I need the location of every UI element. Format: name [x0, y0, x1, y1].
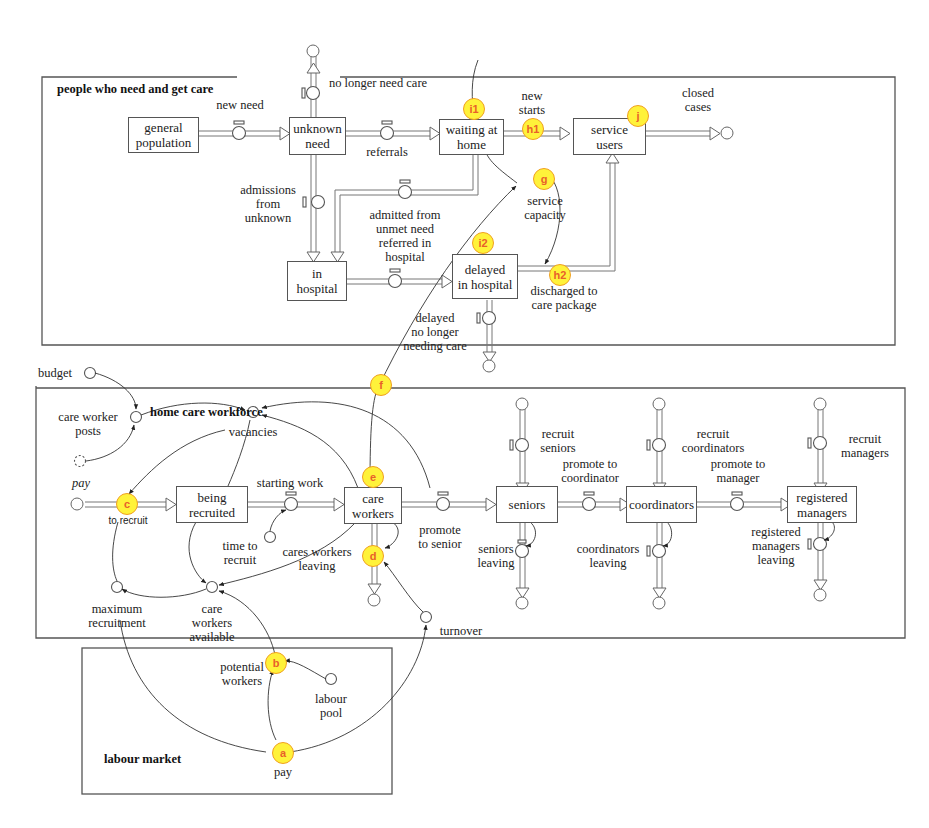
flow-new-starts: new starts — [519, 89, 545, 117]
flow-discharged-to-care-package: discharged to care package — [531, 284, 598, 312]
aux-turnover: turnover — [440, 624, 482, 638]
aux-maximum-recruitment: maximum recruitment — [88, 602, 146, 630]
aux-vacancies: vacancies — [229, 425, 278, 439]
stock-registered-managers[interactable]: registered managers — [787, 486, 857, 523]
labour-pool-icon — [326, 674, 337, 685]
flow-admitted-from-unmet-need: admitted from unmet need referred in hos… — [369, 208, 440, 264]
flow-promote-to-manager: promote to manager — [711, 457, 766, 485]
aux-service-capacity: service capacity — [524, 194, 566, 222]
flow-new-need: new need — [216, 98, 264, 112]
aux-pay-ghost: pay — [72, 476, 90, 490]
stock-being-recruited[interactable]: being recruited — [176, 486, 248, 523]
stock-unknown-need[interactable]: unknown need — [289, 117, 346, 155]
cloud-icon — [653, 597, 665, 609]
time-to-recruit-icon — [265, 532, 276, 543]
aux-pay: pay — [274, 765, 292, 779]
cloud-icon — [307, 45, 319, 57]
maximum-recruitment-icon — [112, 582, 123, 593]
stock-waiting-at-home[interactable]: waiting at home — [439, 119, 504, 155]
marker-h1: h1 — [522, 118, 544, 140]
sector-title-labour: labour market — [104, 752, 181, 767]
flow-promote-to-coordinator: promote to coordinator — [561, 457, 619, 485]
marker-i2: i2 — [472, 232, 494, 254]
flow-starting-work: starting work — [257, 476, 323, 490]
cloud-icon — [516, 597, 528, 609]
marker-g: g — [533, 168, 555, 190]
stock-care-workers[interactable]: care workers — [344, 487, 402, 524]
marker-b: b — [265, 652, 287, 674]
pay-ghost-icon — [75, 456, 86, 467]
aux-labour-pool: labour pool — [315, 692, 347, 720]
flow-closed-cases: closed cases — [682, 86, 714, 114]
flow-recruit-coordinators: recruit coordinators — [682, 427, 744, 455]
cloud-icon — [653, 398, 665, 410]
flow-to-recruit: to recruit — [109, 514, 148, 528]
stock-coordinators[interactable]: coordinators — [626, 486, 697, 523]
aux-potential-workers: potential workers — [220, 660, 264, 688]
flow-seniors-leaving: seniors leaving — [478, 542, 515, 570]
cloud-icon — [71, 498, 83, 510]
stock-delayed-in-hospital[interactable]: delayed in hospital — [452, 254, 518, 299]
care-worker-posts-icon — [131, 412, 142, 423]
stock-general-population[interactable]: general population — [128, 117, 199, 153]
marker-d: d — [362, 545, 384, 567]
cloud-icon — [814, 589, 826, 601]
flow-promote-to-senior: promote to senior — [418, 523, 461, 551]
sector-boundary-workforce — [36, 386, 905, 638]
flow-delayed-no-longer-needing-care: delayed no longer needing care — [403, 311, 467, 353]
aux-time-to-recruit: time to recruit — [222, 539, 257, 567]
cloud-icon — [814, 398, 826, 410]
sector-title-workforce: home care workforce — [150, 405, 263, 420]
aux-care-workers-available: care workers available — [189, 602, 234, 644]
marker-h2: h2 — [549, 264, 571, 286]
marker-i1: i1 — [463, 98, 485, 120]
flow-registered-managers-leaving: registered managers leaving — [751, 525, 800, 567]
stock-seniors[interactable]: seniors — [496, 486, 558, 523]
stock-in-hospital[interactable]: in hospital — [287, 261, 347, 301]
cloud-icon — [516, 398, 528, 410]
cloud-icon — [721, 127, 733, 139]
marker-a: a — [272, 742, 294, 764]
marker-e: e — [362, 466, 384, 488]
marker-f: f — [370, 374, 392, 396]
flow-admissions-from-unknown: admissions from unknown — [240, 183, 296, 225]
cloud-icon — [483, 360, 495, 372]
marker-j: j — [627, 105, 649, 127]
flow-recruit-managers: recruit managers — [841, 432, 889, 460]
marker-c: c — [116, 493, 138, 515]
flow-no-longer-need-care: no longer need care — [329, 76, 427, 90]
turnover-icon — [421, 612, 432, 623]
flow-referrals: referrals — [366, 145, 408, 159]
flow-cares-workers-leaving: cares workers leaving — [282, 545, 351, 573]
aux-budget: budget — [38, 366, 72, 380]
care-workers-available-icon — [207, 582, 218, 593]
flow-recruit-seniors: recruit seniors — [540, 427, 575, 455]
aux-care-worker-posts: care worker posts — [58, 410, 117, 438]
cloud-icon — [368, 594, 380, 606]
budget-icon — [85, 368, 96, 379]
sector-title-care: people who need and get care — [57, 82, 213, 97]
flow-coordinators-leaving: coordinators leaving — [577, 542, 639, 570]
